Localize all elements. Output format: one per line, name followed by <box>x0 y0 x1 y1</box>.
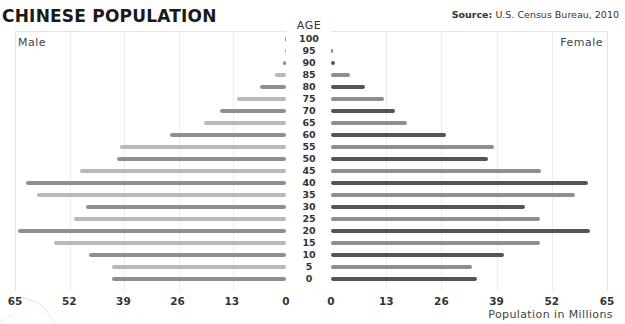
age-label: 60 <box>287 129 331 141</box>
female-bar <box>331 241 540 245</box>
age-label: 40 <box>287 177 331 189</box>
female-gridline <box>552 32 553 291</box>
male-bar <box>283 61 286 65</box>
female-bar <box>331 253 504 257</box>
male-bar <box>117 157 286 161</box>
age-label: 35 <box>287 189 331 201</box>
male-bar <box>86 205 286 209</box>
age-label: 10 <box>287 249 331 261</box>
male-bar <box>204 121 286 125</box>
age-label: 5 <box>287 261 331 273</box>
male-x-tick: 0 <box>282 295 289 307</box>
male-plot-area <box>15 31 287 291</box>
female-bar <box>331 73 350 77</box>
female-bar <box>331 49 333 53</box>
male-bar <box>260 85 286 89</box>
female-x-tick: 39 <box>489 295 504 307</box>
age-label: 55 <box>287 141 331 153</box>
female-bar <box>331 277 477 281</box>
female-bar <box>331 109 395 113</box>
male-x-tick: 39 <box>116 295 131 307</box>
female-bar <box>331 217 540 221</box>
male-bar <box>80 169 286 173</box>
female-bar <box>331 133 446 137</box>
male-bar <box>112 277 286 281</box>
female-x-tick: 65 <box>600 295 615 307</box>
male-bar <box>275 73 286 77</box>
male-x-tick: 26 <box>170 295 185 307</box>
male-bar <box>120 145 286 149</box>
male-bar <box>170 133 286 137</box>
male-bar <box>18 229 286 233</box>
female-x-tick: 0 <box>327 295 334 307</box>
male-bar <box>74 217 286 221</box>
male-bar <box>237 97 286 101</box>
female-plot-area <box>331 31 608 291</box>
female-bar <box>331 265 472 269</box>
female-x-tick: 52 <box>544 295 559 307</box>
age-label: 20 <box>287 225 331 237</box>
age-label: 30 <box>287 201 331 213</box>
male-bar <box>220 109 286 113</box>
decorative-curve <box>0 290 70 324</box>
age-label: 90 <box>287 57 331 69</box>
male-x-tick: 13 <box>224 295 239 307</box>
age-label: 15 <box>287 237 331 249</box>
female-side-label: Female <box>560 36 603 49</box>
age-label: 65 <box>287 117 331 129</box>
age-label: 25 <box>287 213 331 225</box>
female-bar <box>331 169 541 173</box>
female-bar <box>331 193 575 197</box>
x-axis-label: Population in Millions <box>488 308 613 321</box>
male-bar <box>26 181 286 185</box>
female-bar <box>331 85 365 89</box>
age-label: 75 <box>287 93 331 105</box>
female-bar <box>331 181 588 185</box>
age-label: 100 <box>287 33 331 45</box>
male-bar <box>37 193 286 197</box>
male-bar <box>89 253 286 257</box>
age-label: 80 <box>287 81 331 93</box>
age-label: 70 <box>287 105 331 117</box>
age-axis-header: AGE <box>287 19 331 32</box>
chart-title: CHINESE POPULATION <box>2 6 217 26</box>
female-bar <box>331 157 488 161</box>
female-bar <box>331 145 494 149</box>
female-bar <box>331 97 384 101</box>
age-label: 45 <box>287 165 331 177</box>
female-bar <box>331 121 407 125</box>
age-label: 95 <box>287 45 331 57</box>
source-text: U.S. Census Bureau, 2010 <box>495 9 619 20</box>
female-bar <box>331 229 590 233</box>
male-bar <box>112 265 286 269</box>
source-note: Source: U.S. Census Bureau, 2010 <box>452 9 619 20</box>
age-label: 0 <box>287 273 331 285</box>
male-gridline <box>70 32 71 291</box>
male-bar <box>54 241 286 245</box>
male-side-label: Male <box>18 36 46 49</box>
age-label: 85 <box>287 69 331 81</box>
source-label: Source: <box>452 9 493 20</box>
age-label: 50 <box>287 153 331 165</box>
female-x-tick: 13 <box>379 295 394 307</box>
male-bar <box>285 37 287 41</box>
female-bar <box>331 205 525 209</box>
female-x-tick: 26 <box>434 295 449 307</box>
male-bar <box>285 49 287 53</box>
